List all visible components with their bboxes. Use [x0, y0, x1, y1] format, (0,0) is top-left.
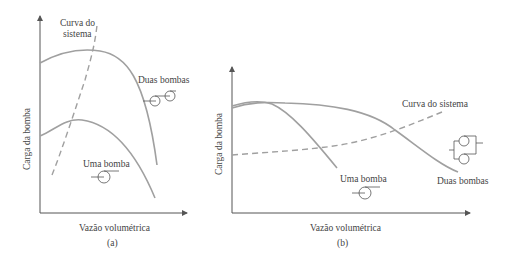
two-pumps-label-a: Duas bombas: [138, 75, 190, 85]
two-pumps-label-b: Duas bombas: [437, 176, 489, 186]
pump-curves-diagram: Curva do sistema Duas bombas Uma bomba C…: [0, 0, 509, 263]
y-axis-label-a: Carga da bomba: [22, 107, 32, 170]
system-curve-label-a-line1: Curva do: [60, 18, 95, 28]
two-pumps-curve-b: [232, 103, 458, 172]
one-pump-curve-b: [232, 102, 337, 168]
single-pump-icon-b: [352, 187, 380, 199]
system-curve-b: [232, 112, 442, 155]
system-curve-label-a-line2: sistema: [63, 29, 92, 39]
series-pumps-icon: [143, 91, 176, 106]
caption-b: (b): [337, 238, 348, 249]
x-axis-label-a: Vazão volumétrica: [79, 223, 151, 233]
system-curve-label-b: Curva do sistema: [402, 99, 469, 109]
two-pumps-curve-a: [40, 50, 157, 165]
caption-a: (a): [107, 238, 118, 249]
single-pump-icon-a: [91, 171, 119, 183]
figure-a: Curva do sistema Duas bombas Uma bomba C…: [22, 16, 190, 249]
x-axis-label-b: Vazão volumétrica: [310, 223, 382, 233]
figure-b: Curva do sistema Duas bombas Uma bomba C…: [214, 67, 489, 249]
system-curve-a: [52, 25, 97, 175]
one-pump-label-b: Uma bomba: [340, 174, 387, 184]
parallel-pumps-icon: [449, 136, 483, 164]
y-axis-label-b: Carga da bomba: [214, 112, 224, 175]
one-pump-label-a: Uma bomba: [83, 159, 130, 169]
